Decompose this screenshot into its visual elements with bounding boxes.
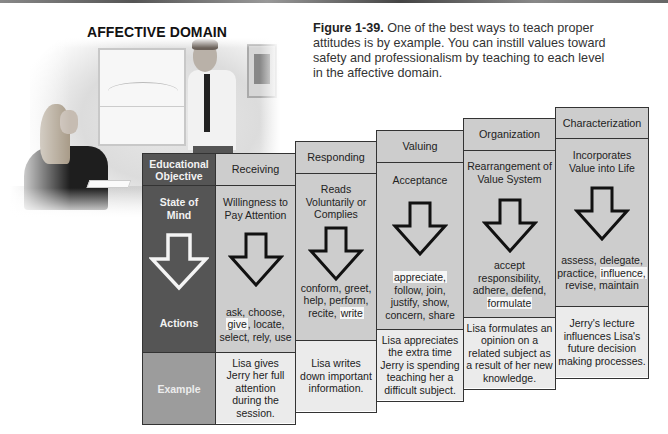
actions-text: assess, delegate, practice, influence, r…	[557, 254, 647, 292]
state-of-mind-text: Rearrangement of Value System	[467, 160, 553, 185]
example-text: Lisa appreciates the extra time Jerry is…	[377, 330, 463, 400]
level-responding: Responding Reads Voluntarily or Complies…	[295, 141, 377, 413]
down-arrow-icon	[574, 186, 630, 242]
example-text: Lisa gives Jerry her full attention duri…	[216, 353, 295, 423]
down-arrow-icon	[149, 233, 209, 291]
actions-text: conform, greet, help, perform, recite, w…	[301, 282, 372, 320]
example-label: Example	[143, 353, 215, 424]
level-header: Valuing	[377, 131, 463, 163]
level-organization: Organization Rearrangement of Value Syst…	[463, 118, 556, 390]
state-of-mind-text: Incorporates Value into Life	[564, 149, 640, 174]
state-of-mind-cell: State of Mind Actions	[143, 186, 215, 353]
actions-text: appreciate, follow, join, justify, show,…	[385, 271, 454, 321]
down-arrow-icon	[308, 226, 364, 282]
level-header: Receiving	[216, 154, 295, 186]
instructor-figure	[188, 70, 236, 150]
example-text: Lisa formulates an opinion on a related …	[464, 318, 555, 388]
level-header: Responding	[296, 142, 376, 174]
down-arrow-icon	[482, 198, 538, 254]
figure-label: Figure 1-39.	[313, 21, 384, 35]
state-of-mind-text: Acceptance	[393, 174, 448, 187]
actions-label: Actions	[160, 317, 199, 330]
state-of-mind-label: State of Mind	[154, 196, 204, 221]
state-of-mind-text: Willingness to Pay Attention	[219, 196, 293, 221]
actions-text: accept responsibility, adhere, defend, f…	[473, 259, 547, 309]
down-arrow-icon	[392, 201, 448, 257]
level-body: Reads Voluntarily or Complies conform, g…	[296, 174, 376, 341]
figure-caption: Figure 1-39. One of the best ways to tea…	[313, 21, 613, 81]
level-valuing: Valuing Acceptance appreciate, follow, j…	[376, 130, 464, 402]
level-header: Characterization	[556, 108, 648, 139]
level-body: Rearrangement of Value System accept res…	[464, 151, 555, 318]
example-text: Lisa writes down important information.	[296, 341, 376, 411]
level-body: Acceptance appreciate, follow, join, jus…	[377, 163, 463, 330]
level-characterization: Characterization Incorporates Value into…	[555, 107, 649, 379]
top-border	[0, 0, 668, 3]
level-header: Organization	[464, 119, 555, 151]
state-of-mind-text: Reads Voluntarily or Complies	[303, 183, 369, 221]
whiteboard	[98, 48, 186, 146]
actions-text: ask, choose, give, locate, select, rely,…	[219, 306, 291, 344]
educational-objective-label: Educational Objective	[143, 154, 215, 186]
level-body: Willingness to Pay Attention ask, choose…	[216, 186, 295, 353]
level-body: Incorporates Value into Life assess, del…	[556, 139, 648, 307]
level-receiving: Receiving Willingness to Pay Attention a…	[215, 153, 296, 425]
key-column: Educational Objective State of Mind Acti…	[142, 153, 216, 425]
example-text: Jerry's lecture influences Lisa's future…	[556, 307, 648, 377]
down-arrow-icon	[228, 232, 284, 288]
